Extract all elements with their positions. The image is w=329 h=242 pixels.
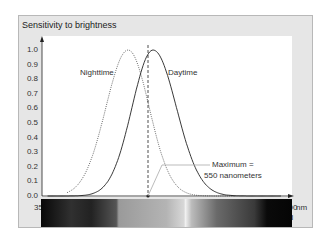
y-axis-arrow (40, 36, 44, 42)
daytime-label: Daytime (168, 68, 197, 77)
max-callout-diag (148, 165, 162, 196)
maximum-label-line2: 550 nanometers (204, 171, 262, 180)
maximum-label-line1: Maximum = (212, 160, 254, 169)
x-axis-arrow (288, 194, 294, 198)
nighttime-label: Nighttime (80, 68, 114, 77)
spectrum-bar (41, 199, 292, 227)
chart-svg (0, 0, 329, 242)
